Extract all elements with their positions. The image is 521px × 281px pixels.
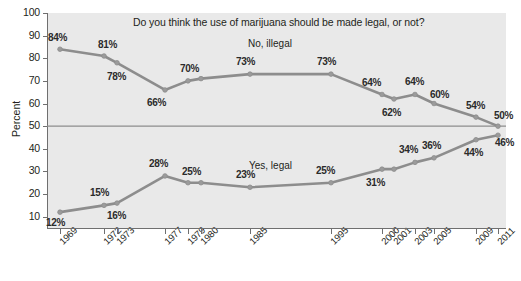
data-point-label: 50% <box>494 110 513 121</box>
data-point-label: 23% <box>236 169 255 180</box>
data-point <box>115 60 120 65</box>
data-point-label: 73% <box>236 56 255 67</box>
data-point <box>474 115 479 120</box>
data-point <box>163 88 168 93</box>
data-point <box>496 124 501 129</box>
data-point-label: 12% <box>46 217 65 228</box>
data-point-label: 16% <box>107 210 126 221</box>
data-point <box>186 180 191 185</box>
data-point <box>163 174 168 179</box>
data-point-label: 25% <box>316 165 335 176</box>
data-point <box>115 201 120 206</box>
data-point <box>432 156 437 161</box>
data-point <box>474 137 479 142</box>
data-point <box>413 92 418 97</box>
data-point-label: 31% <box>366 177 385 188</box>
data-point <box>102 54 107 59</box>
data-point <box>186 79 191 84</box>
data-point <box>329 180 334 185</box>
data-point-label: 73% <box>317 56 336 67</box>
data-point <box>248 185 253 190</box>
data-point-label: 46% <box>495 137 514 148</box>
data-point <box>392 167 397 172</box>
data-point-label: 34% <box>399 144 418 155</box>
data-point <box>58 47 63 52</box>
data-point-label: 44% <box>464 147 483 158</box>
data-point-label: 78% <box>107 71 126 82</box>
data-point-label: 64% <box>405 76 424 87</box>
data-point <box>102 203 107 208</box>
data-point <box>199 180 204 185</box>
data-point <box>329 72 334 77</box>
data-point <box>199 76 204 81</box>
data-point <box>432 101 437 106</box>
data-point <box>380 92 385 97</box>
data-point-label: 25% <box>182 166 201 177</box>
data-point <box>380 167 385 172</box>
data-point <box>248 72 253 77</box>
data-point-label: 66% <box>147 97 166 108</box>
data-point <box>413 160 418 165</box>
data-point-label: 36% <box>422 140 441 151</box>
chart-container: Percent Do you think the use of marijuan… <box>0 0 521 281</box>
data-point-label: 81% <box>98 39 117 50</box>
data-point-label: 70% <box>180 63 199 74</box>
data-point-label: 28% <box>149 158 168 169</box>
data-point-label: 15% <box>90 187 109 198</box>
series-lines <box>0 0 521 281</box>
data-point-label: 64% <box>362 77 381 88</box>
data-point-label: 54% <box>466 100 485 111</box>
data-point <box>58 210 63 215</box>
data-point <box>392 97 397 102</box>
data-point-label: 62% <box>382 107 401 118</box>
data-point-label: 60% <box>430 89 449 100</box>
data-point-label: 84% <box>48 32 67 43</box>
